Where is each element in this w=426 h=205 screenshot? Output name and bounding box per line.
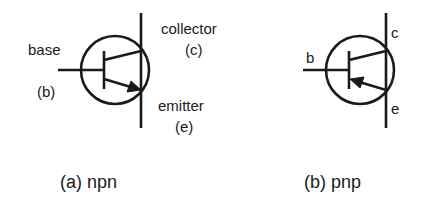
npn-emitter-arrow-icon — [127, 81, 141, 92]
pnp-base-label: b — [306, 50, 314, 66]
npn-emitter-label: emitter — [158, 98, 204, 114]
pnp-emitter-label: e — [391, 101, 399, 117]
pnp-collector-label: c — [391, 25, 399, 41]
npn-base-symbol-label: (b) — [37, 84, 55, 100]
npn-emitter-symbol-label: (e) — [175, 119, 193, 135]
npn-base-label: base — [28, 42, 61, 58]
pnp-collector-line — [349, 51, 386, 60]
npn-symbol — [58, 13, 149, 128]
npn-caption: (a) npn — [60, 172, 117, 192]
npn-collector-line — [104, 51, 141, 60]
pnp-emitter-arrow-icon — [350, 77, 364, 88]
npn-collector-label: collector — [161, 21, 217, 37]
npn-collector-symbol-label: (c) — [185, 42, 203, 58]
pnp-symbol — [303, 13, 394, 128]
pnp-caption: (b) pnp — [304, 172, 361, 192]
